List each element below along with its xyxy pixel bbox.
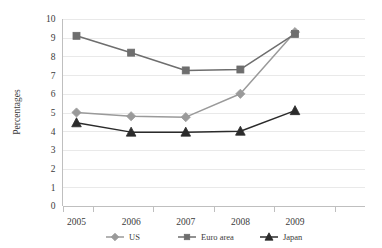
y-axis-tick-label: 4: [51, 127, 56, 137]
y-axis-tick-label: 10: [46, 14, 56, 24]
line-chart: 012345678910 20052006200720082009 Percen…: [0, 0, 382, 248]
y-axis-tick-label: 7: [51, 71, 56, 81]
data-point-marker: [182, 67, 189, 74]
chart-canvas: 012345678910 20052006200720082009 Percen…: [0, 0, 382, 248]
x-axis-tick-label: 2009: [286, 217, 305, 227]
legend-label: Euro area: [201, 232, 234, 242]
y-axis-tick-label: 1: [51, 183, 56, 193]
legend-label: Japan: [283, 232, 303, 242]
x-axis-tick-label: 2007: [176, 217, 195, 227]
y-axis-tick-label: 2: [51, 164, 56, 174]
y-axis-title: Percentages: [12, 89, 22, 135]
data-point-marker: [184, 234, 189, 239]
chart-background: [0, 0, 382, 248]
data-point-marker: [292, 30, 299, 37]
data-point-marker: [73, 32, 80, 39]
data-point-marker: [128, 49, 135, 56]
x-axis-tick-label: 2006: [122, 217, 141, 227]
y-axis-tick-label: 9: [51, 33, 56, 43]
y-axis-tick-label: 6: [51, 89, 56, 99]
legend-label: US: [129, 232, 140, 242]
x-axis-tick-label: 2008: [231, 217, 250, 227]
data-point-marker: [237, 66, 244, 73]
y-axis-tick-label: 8: [51, 52, 56, 62]
y-axis-tick-label: 5: [51, 108, 56, 118]
x-axis-tick-label: 2005: [67, 217, 86, 227]
y-axis-tick-label: 3: [51, 145, 56, 155]
y-axis-tick-label: 0: [51, 201, 56, 211]
